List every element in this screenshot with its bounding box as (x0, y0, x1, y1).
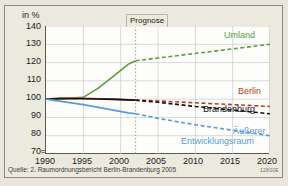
series-label-entwicklungsraum: Entwicklungsraum (181, 136, 254, 146)
chart-figure: in % 140 130 120 110 100 90 80 70 ≈ Prog… (0, 0, 288, 186)
source-note: Quelle: 2. Raumordnungsbericht Berlin-Br… (8, 166, 176, 173)
y-tick-70: 70 (1, 146, 45, 156)
y-tick-140: 140 (1, 21, 45, 31)
y-tick-130: 130 (1, 38, 45, 48)
series-label-berlin: Berlin (238, 86, 261, 96)
series-label-umland: Umland (224, 30, 255, 40)
y-tick-90: 90 (1, 110, 45, 120)
y-tick-110: 110 (1, 74, 45, 84)
forecast-marker-label: Prognose (126, 14, 168, 27)
x-tick-2000: 2000 (102, 156, 136, 166)
y-tick-80: 80 (1, 128, 45, 138)
series-label-aeusserer: Äußerer (233, 126, 266, 136)
x-tick-2020: 2020 (250, 156, 284, 166)
x-tick-2005: 2005 (139, 156, 173, 166)
x-tick-1995: 1995 (65, 156, 99, 166)
x-tick-2010: 2010 (176, 156, 210, 166)
y-tick-100: 100 (1, 92, 45, 102)
figure-code: 12800E (260, 167, 279, 173)
x-tick-2015: 2015 (213, 156, 247, 166)
y-tick-120: 120 (1, 56, 45, 66)
x-tick-1990: 1990 (28, 156, 62, 166)
series-label-brandenburg: Brandenburg (203, 104, 255, 114)
